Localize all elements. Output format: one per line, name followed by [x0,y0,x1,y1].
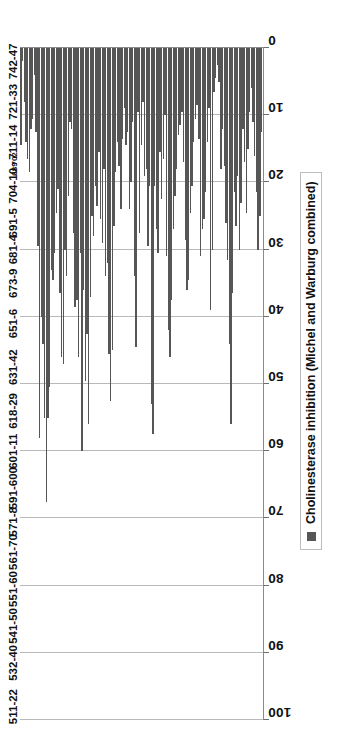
value-tick-label-40: 40 [268,302,283,317]
category-label: 742-47 [7,44,19,80]
category-label: 681-4 [7,235,19,264]
chart-rotation-wrapper: 742-47721-33711-14702689704-10691-5681-4… [0,0,338,736]
value-axis-line [263,48,264,720]
category-label: 704-10 [7,168,19,204]
value-tick-label-90: 90 [268,638,283,653]
category-label: 571-8 [7,507,19,536]
category-label: 721-33 [7,84,19,120]
category-label: 591-600 [7,467,19,509]
category-label: 561-70 [7,534,19,570]
category-label: 651-6 [7,309,19,338]
category-label: 618-29 [7,393,19,429]
category-label: 551-60 [7,571,19,607]
category-label: 511-22 [7,689,19,724]
value-tick-label-10: 10 [268,100,283,115]
category-label: 673-9 [7,268,19,297]
bars [20,48,264,720]
value-tick-label-50: 50 [268,369,283,384]
chart-legend: Cholinesterase inhibition (Michel and Wa… [300,172,322,550]
legend-swatch-icon [307,532,316,541]
value-tick-label-30: 30 [268,235,283,250]
value-tick-label-70: 70 [268,503,283,518]
bar-chart-figure: 742-47721-33711-14702689704-10691-5681-4… [0,0,338,736]
category-label: 532-40 [7,645,19,681]
legend-label: Cholinesterase inhibition (Michel and Wa… [304,181,318,524]
value-tick-label-100: 100 [268,705,291,720]
bar [20,48,21,145]
category-label: 601-11 [7,434,19,469]
category-label: 541-50 [7,608,19,644]
category-axis: 742-47721-33711-14702689704-10691-5681-4… [0,48,20,720]
value-tick-label-60: 60 [268,436,283,451]
category-label: 631-42 [7,349,19,385]
plot-area [20,48,264,720]
value-tick-label-80: 80 [268,571,283,586]
value-tick-label-0: 0 [268,33,276,48]
category-label: 691-5 [7,208,19,237]
value-tick-label-20: 20 [268,167,283,182]
